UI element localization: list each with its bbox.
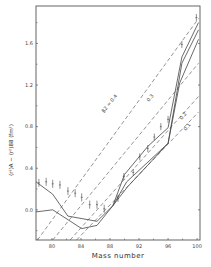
y-axis-ticks: 0.00.40.81.21.6: [25, 23, 200, 231]
y-tick-label: 0.0: [25, 207, 33, 213]
x-tick-label: 84: [78, 243, 84, 249]
line-labels: β2 = 0.40.30.20.1: [100, 93, 192, 132]
x-tick-label: 92: [136, 243, 142, 249]
solid-curve: [36, 23, 199, 222]
line-label: 0.1: [182, 122, 192, 132]
dashed-line: [53, 63, 199, 240]
y-tick-label: 1.6: [25, 40, 33, 46]
y-tick-label: 0.8: [25, 123, 33, 129]
chart: 8084889296100 0.00.40.81.21.6 β2 = 0.40.…: [0, 0, 211, 267]
calculated-curves: [36, 23, 199, 229]
x-tick-label: 96: [165, 243, 171, 249]
solid-curve: [36, 30, 199, 229]
line-label: β2 = 0.4: [100, 93, 119, 114]
y-tick-label: 1.2: [25, 82, 33, 88]
line-label: 0.2: [178, 111, 188, 121]
x-tick-label: 88: [107, 243, 113, 249]
plot-area: 8084889296100 0.00.40.81.21.6 β2 = 0.40.…: [25, 6, 202, 249]
x-tick-label: 80: [49, 243, 55, 249]
y-axis-label: ⟨r²⟩A − ⟨r²⟩88 (fm²): [8, 124, 14, 176]
y-tick-label: 0.4: [25, 165, 33, 171]
line-label: 0.3: [145, 93, 155, 103]
x-tick-label: 100: [192, 243, 202, 249]
x-axis-label: Mass number: [92, 252, 145, 260]
